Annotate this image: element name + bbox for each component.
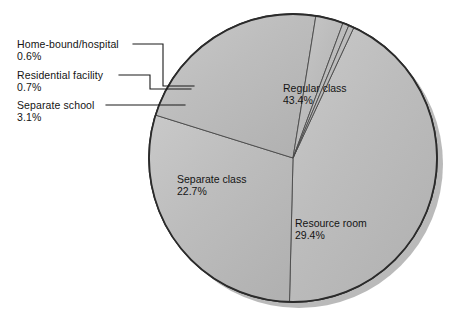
slice-name-resource-room: Resource room [295, 217, 367, 229]
callout-label-home-bound-hospital: Home-bound/hospital 0.6% [17, 38, 119, 63]
callout-percent-home-bound-hospital: 0.6% [17, 50, 119, 62]
slice-percent-separate-class: 22.7% [177, 185, 246, 197]
slice-name-regular-class: Regular class [283, 82, 347, 94]
callout-percent-residential-facility: 0.7% [17, 81, 103, 93]
callout-label-separate-school: Separate school 3.1% [17, 99, 94, 124]
callout-name-residential-facility: Residential facility [17, 69, 103, 81]
callout-percent-separate-school: 3.1% [17, 111, 94, 123]
pie-slices [149, 14, 437, 302]
callout-name-home-bound-hospital: Home-bound/hospital [17, 38, 119, 50]
callout-name-separate-school: Separate school [17, 99, 94, 111]
slice-label-resource-room: Resource room 29.4% [295, 217, 367, 242]
slice-percent-resource-room: 29.4% [295, 229, 367, 241]
slice-name-separate-class: Separate class [177, 173, 246, 185]
slice-label-regular-class: Regular class 43.4% [283, 82, 347, 107]
callout-label-residential-facility: Residential facility 0.7% [17, 69, 103, 94]
slice-percent-regular-class: 43.4% [283, 94, 347, 106]
slice-label-separate-class: Separate class 22.7% [177, 173, 246, 198]
pie-chart: Home-bound/hospital 0.6% Residential fac… [0, 0, 461, 322]
